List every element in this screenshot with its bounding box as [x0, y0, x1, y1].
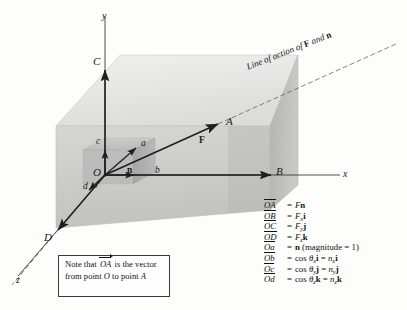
z-axis-label: z: [16, 275, 20, 285]
equals-sign: =: [287, 201, 295, 210]
equation-lhs: OD: [264, 232, 287, 242]
equals-sign: =: [287, 243, 295, 252]
equation-token: =: [319, 264, 328, 274]
equation-row: Oa= n (magnitude = 1): [264, 242, 359, 253]
note-box: Note that OA is the vector from point O …: [58, 255, 170, 297]
point-label-C: C: [93, 56, 100, 67]
equation-lhs: OA: [264, 200, 287, 210]
equation-row: Oc= cos θyj = nyj: [264, 264, 359, 275]
equation-token: cos: [295, 264, 309, 274]
equation-token: j: [303, 221, 306, 231]
equation-row: OD= Fzk: [264, 232, 359, 243]
note-vector-OA: OA: [99, 259, 112, 269]
equation-rhs: cos θzk = nzk: [295, 275, 342, 285]
overbar-vector: Ob: [264, 253, 275, 263]
equation-token: (magnitude = 1): [300, 242, 359, 252]
note-line1-pre: Note that: [65, 259, 97, 269]
equation-token: k: [303, 232, 308, 242]
equation-lhs: OC: [264, 221, 287, 231]
equation-list: OA= FnOB= FxiOC= FyjOD= FzkOa= n (magnit…: [264, 200, 359, 285]
point-label-c: c: [96, 137, 100, 147]
overbar-vector: Od: [264, 274, 275, 284]
equals-sign: =: [287, 265, 295, 274]
point-label-b: b: [155, 166, 160, 176]
overbar-vector: OA: [264, 200, 276, 210]
equation-rhs: Fn: [295, 201, 305, 210]
overbar-vector: OB: [264, 211, 276, 221]
note-line3-pre: to point: [112, 271, 139, 281]
overbar-vector: Oc: [264, 264, 274, 274]
origin-dot: [104, 174, 107, 177]
equation-token: i: [303, 211, 305, 221]
equation-lhs: OB: [264, 211, 287, 221]
overbar-vector: OD: [264, 232, 277, 242]
point-label-a: a: [141, 139, 146, 149]
equation-token: =: [319, 253, 328, 263]
equation-token: i: [335, 253, 337, 263]
equals-sign: =: [287, 233, 295, 242]
point-label-A: A: [226, 116, 233, 127]
equation-row: Od= cos θzk = nzk: [264, 274, 359, 285]
equation-row: OA= Fn: [264, 200, 359, 211]
equals-sign: =: [287, 222, 295, 231]
point-label-d: d: [83, 182, 88, 192]
x-axis-label: x: [343, 169, 347, 179]
equation-rhs: n (magnitude = 1): [295, 243, 359, 252]
inner-box-front-face: [83, 150, 133, 184]
equation-token: k: [337, 274, 342, 284]
equation-token: cos: [295, 253, 309, 263]
equation-token: n: [300, 200, 305, 210]
point-label-B: B: [276, 166, 283, 177]
note-line3-point: A: [141, 271, 146, 281]
equation-token: j: [336, 264, 339, 274]
equals-sign: =: [287, 212, 295, 221]
point-label-O: O: [93, 167, 101, 178]
equals-sign: =: [287, 254, 295, 263]
note-line1-post: is the: [115, 259, 133, 269]
overbar-vector: OC: [264, 221, 276, 231]
note-line2-point: O: [104, 271, 110, 281]
point-label-D: D: [44, 232, 52, 243]
equation-row: OB= Fxi: [264, 211, 359, 222]
unit-vector-label-n: n: [127, 166, 132, 176]
overbar-vector: Oa: [264, 242, 275, 252]
equation-lhs: Oc: [264, 264, 287, 274]
equation-lhs: Ob: [264, 253, 287, 263]
mechanics-figure: y x z C B D A O a b c d F n Line of acti…: [0, 0, 407, 310]
equation-token: cos: [295, 274, 309, 284]
y-axis-label: y: [102, 11, 106, 21]
equation-lhs: Od: [264, 274, 287, 284]
equals-sign: =: [287, 275, 295, 284]
force-vector-label-F: F: [199, 136, 205, 146]
equation-lhs: Oa: [264, 242, 287, 252]
equation-token: =: [321, 274, 330, 284]
equation-row: Ob= cos θxi = nxi: [264, 253, 359, 264]
equation-row: OC= Fyj: [264, 221, 359, 232]
